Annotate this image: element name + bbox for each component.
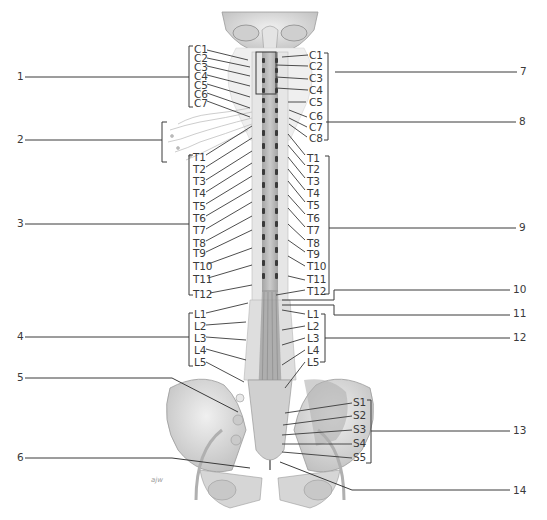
spinal-nerves-diagram: C1 C2 C3 C4 C5 C6 C7 T1 T2 T3 T4 T5 T6 T…	[0, 0, 547, 520]
callout-10: 10	[513, 284, 526, 295]
label-right-c5: C5	[309, 97, 323, 108]
label-right-l5: L5	[307, 357, 319, 368]
callout-14: 14	[513, 485, 526, 496]
callout-2: 2	[17, 134, 24, 145]
label-left-t11: T11	[193, 274, 212, 285]
label-right-s4: S4	[353, 438, 366, 449]
label-right-l2: L2	[307, 321, 319, 332]
label-left-t6: T6	[193, 213, 206, 224]
label-left-l5: L5	[194, 357, 206, 368]
artist-signature: ajw	[151, 476, 163, 484]
label-left-l4: L4	[194, 345, 206, 356]
label-left-l1: L1	[194, 309, 206, 320]
label-right-s2: S2	[353, 410, 366, 421]
label-right-s5: S5	[353, 452, 366, 463]
label-right-c2: C2	[309, 61, 323, 72]
label-right-c3: C3	[309, 73, 323, 84]
label-right-c8: C8	[309, 133, 323, 144]
label-left-t9: T9	[193, 248, 206, 259]
label-right-t10: T10	[307, 261, 326, 272]
label-right-t2: T2	[307, 164, 320, 175]
callout-7: 7	[520, 66, 527, 77]
label-left-t10: T10	[193, 261, 212, 272]
label-left-c7: C7	[194, 98, 208, 109]
label-right-s3: S3	[353, 424, 366, 435]
callout-4: 4	[17, 331, 24, 342]
callout-11: 11	[513, 308, 526, 319]
callout-13: 13	[513, 425, 526, 436]
callout-5: 5	[17, 372, 24, 383]
label-left-t3: T3	[193, 176, 206, 187]
label-right-t6: T6	[307, 213, 320, 224]
label-right-t4: T4	[307, 188, 320, 199]
label-left-t5: T5	[193, 201, 206, 212]
callout-6: 6	[17, 452, 24, 463]
label-right-t3: T3	[307, 176, 320, 187]
label-left-t12: T12	[193, 289, 212, 300]
callout-3: 3	[17, 218, 24, 229]
label-right-t12: T12	[307, 286, 326, 297]
label-right-l4: L4	[307, 345, 319, 356]
callout-8: 8	[519, 116, 526, 127]
callout-1: 1	[17, 71, 24, 82]
label-right-l1: L1	[307, 309, 319, 320]
label-right-t7: T7	[307, 225, 320, 236]
label-right-t11: T11	[307, 274, 326, 285]
label-left-t1: T1	[193, 152, 206, 163]
label-left-l3: L3	[194, 333, 206, 344]
spine-illustration	[0, 0, 547, 520]
label-left-t4: T4	[193, 188, 206, 199]
label-right-t9: T9	[307, 249, 320, 260]
label-right-l3: L3	[307, 333, 319, 344]
callout-9: 9	[519, 222, 526, 233]
label-right-c4: C4	[309, 85, 323, 96]
callout-12: 12	[513, 332, 526, 343]
skull-base	[222, 12, 318, 52]
label-right-t5: T5	[307, 200, 320, 211]
label-left-t7: T7	[193, 225, 206, 236]
label-left-l2: L2	[194, 321, 206, 332]
label-right-s1: S1	[353, 397, 366, 408]
label-left-t2: T2	[193, 164, 206, 175]
